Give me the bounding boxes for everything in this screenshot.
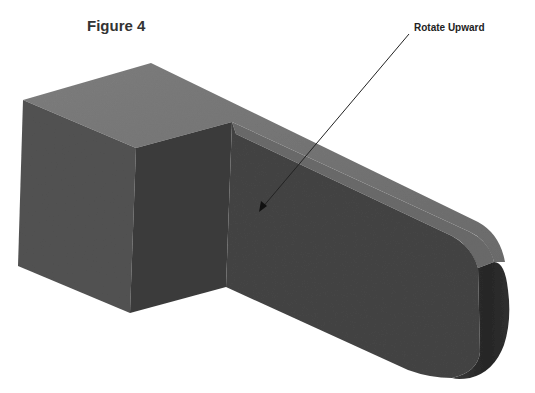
- block-front-face: [130, 122, 232, 313]
- cad-model-view: [0, 0, 535, 393]
- arm-side-face: [226, 122, 480, 378]
